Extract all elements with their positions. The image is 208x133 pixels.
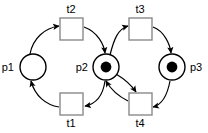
place-label-p2: p2 bbox=[76, 61, 88, 73]
token-p2 bbox=[101, 62, 112, 73]
arc-p2-to-t3 bbox=[110, 26, 128, 55]
place-label-p1: p1 bbox=[2, 61, 14, 73]
transition-t1[interactable] bbox=[60, 93, 83, 115]
arc-t2-to-p2 bbox=[84, 27, 105, 53]
arc-p2-to-t1 bbox=[85, 81, 105, 106]
transition-t4[interactable] bbox=[129, 93, 152, 115]
transition-label-t4: t4 bbox=[135, 117, 144, 129]
transition-t3[interactable] bbox=[129, 18, 152, 40]
arc-t4-to-p2 bbox=[106, 81, 128, 101]
petri-net-diagram: t2t3t1t4p1p2p3 bbox=[0, 0, 208, 133]
arc-p2-to-t4 bbox=[116, 74, 136, 92]
arc-p1-to-t2 bbox=[30, 26, 59, 54]
arc-t3-to-p3 bbox=[153, 27, 171, 53]
arc-t1-to-p1 bbox=[31, 81, 59, 107]
token-p3 bbox=[167, 62, 178, 73]
arc-p3-to-t4 bbox=[153, 81, 170, 107]
transition-t2[interactable] bbox=[60, 18, 83, 40]
transition-label-t1: t1 bbox=[66, 117, 75, 129]
petri-net-canvas: t2t3t1t4p1p2p3 bbox=[0, 0, 208, 133]
places-layer bbox=[20, 54, 185, 80]
place-label-p3: p3 bbox=[190, 61, 202, 73]
transition-label-t2: t2 bbox=[66, 3, 75, 15]
transition-label-t3: t3 bbox=[135, 3, 144, 15]
place-p1[interactable] bbox=[20, 54, 46, 80]
